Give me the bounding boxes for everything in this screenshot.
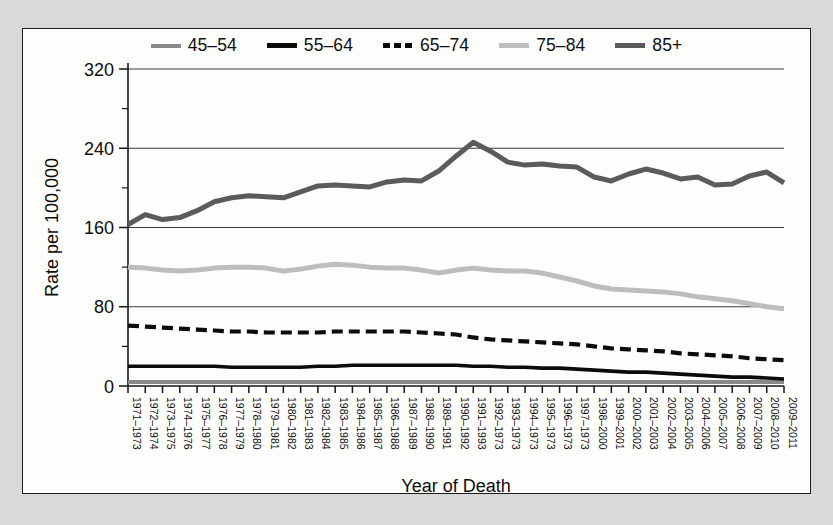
x-tick-label: 1983–1985 <box>338 397 350 450</box>
x-tick-label: 1994–1973 <box>528 397 540 450</box>
series-line-85+ <box>128 142 784 224</box>
x-tick-label: 2000–2002 <box>631 397 643 450</box>
x-tick-label: 2003–2005 <box>683 397 695 450</box>
x-tick-label: 1976–1978 <box>217 397 229 450</box>
series-line-75-84 <box>128 264 784 309</box>
x-tick-label: 1981–1983 <box>303 397 315 450</box>
y-axis-title: Rate per 100,000 <box>42 158 62 297</box>
x-tick-label: 1991–1993 <box>476 397 488 450</box>
x-tick-label: 1989–1991 <box>441 397 453 450</box>
x-tick-label: 1985–1987 <box>372 397 384 450</box>
x-tick-label: 1988–1990 <box>424 397 436 450</box>
x-tick-label: 1995–1973 <box>545 397 557 450</box>
figure-panel: 45–5455–6465–7475–8485+ 0801602403201971… <box>22 28 811 494</box>
line-chart: 0801602403201971–19731972–19741973–19751… <box>23 29 812 495</box>
x-tick-label: 1979–1981 <box>269 397 281 450</box>
x-tick-label: 2007–2009 <box>752 397 764 450</box>
y-tick-label: 0 <box>104 377 114 397</box>
x-axis-title: Year of Death <box>401 476 510 495</box>
x-tick-label: 1972–1974 <box>148 397 160 450</box>
x-tick-label: 1975–1977 <box>200 397 212 450</box>
x-tick-label: 1992–1973 <box>493 397 505 450</box>
x-tick-label: 1980–1982 <box>286 397 298 450</box>
x-tick-label: 1998–2000 <box>597 397 609 450</box>
series-line-65-74 <box>128 326 784 361</box>
x-tick-label: 2005–2007 <box>717 397 729 450</box>
x-tick-label: 2002–2004 <box>666 397 678 450</box>
x-tick-label: 2001–2003 <box>648 397 660 450</box>
x-tick-label: 1986–1988 <box>389 397 401 450</box>
plot-area: 0801602403201971–19731972–19741973–19751… <box>23 29 812 495</box>
x-tick-label: 1982–1984 <box>320 397 332 450</box>
x-tick-label: 1990–1992 <box>459 397 471 450</box>
x-tick-label: 2004–2006 <box>700 397 712 450</box>
x-tick-label: 1996–1973 <box>562 397 574 450</box>
x-tick-label: 1997–1973 <box>579 397 591 450</box>
y-tick-label: 160 <box>84 218 114 238</box>
x-tick-label: 2006–2008 <box>735 397 747 450</box>
x-tick-label: 1974–1976 <box>182 397 194 450</box>
x-tick-label: 1987–1989 <box>407 397 419 450</box>
y-tick-label: 320 <box>84 60 114 80</box>
x-tick-label: 2008–2010 <box>769 397 781 450</box>
series-line-55-64 <box>128 365 784 379</box>
x-tick-label: 1977–1979 <box>234 397 246 450</box>
y-tick-label: 240 <box>84 139 114 159</box>
x-tick-label: 2009–2011 <box>787 397 799 449</box>
x-tick-label: 1971–1973 <box>131 397 143 450</box>
x-tick-label: 1978–1980 <box>251 397 263 450</box>
x-tick-label: 1993–1973 <box>510 397 522 450</box>
x-tick-label: 1999–2001 <box>614 397 626 450</box>
x-tick-label: 1984–1986 <box>355 397 367 450</box>
x-tick-label: 1973–1975 <box>165 397 177 450</box>
y-tick-label: 80 <box>94 297 114 317</box>
